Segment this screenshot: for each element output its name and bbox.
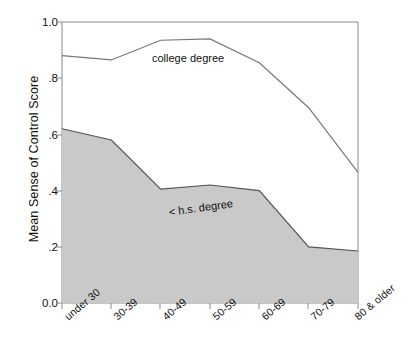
y-axis-ticks — [56, 22, 62, 303]
series-label-college-degree: college degree — [152, 52, 224, 64]
series-area-hs-degree — [62, 129, 358, 303]
chart-container: Mean Sense of Control Score 1.0 .8 .6 .4… — [0, 0, 412, 363]
